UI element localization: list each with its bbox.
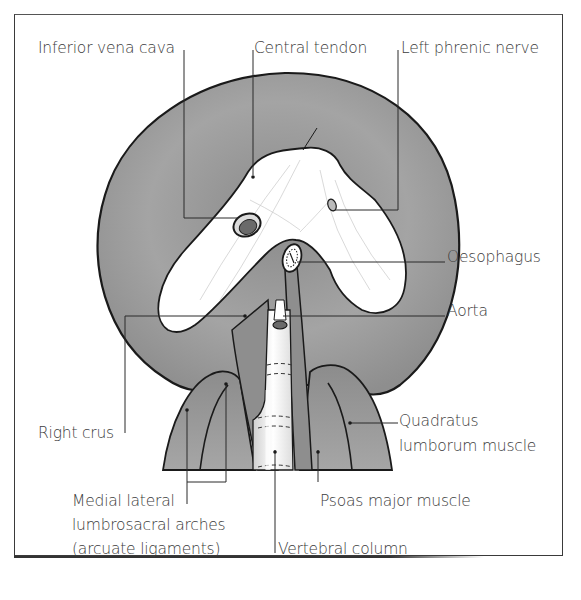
label-psoas-major: Psoas major muscle — [320, 491, 471, 511]
label-vertebral-column: Vertebral column — [278, 539, 408, 559]
label-quadratus-line1: Quadratus — [399, 411, 478, 431]
aorta-opening — [273, 300, 287, 329]
label-aorta: Aorta — [447, 301, 488, 321]
label-right-crus: Right crus — [38, 423, 114, 443]
label-medial-lateral-line3: (arcuate ligaments) — [72, 539, 220, 559]
label-central-tendon: Central tendon — [254, 38, 367, 58]
label-inferior-vena-cava: Inferior vena cava — [38, 38, 175, 58]
label-medial-lateral-line1: Medial lateral — [72, 491, 175, 511]
label-medial-lateral-line2: lumbrosacral arches — [72, 515, 225, 535]
label-oesophagus: Oesophagus — [447, 247, 541, 267]
label-quadratus-line2: lumborum muscle — [399, 436, 536, 456]
label-left-phrenic-nerve: Left phrenic nerve — [401, 38, 539, 58]
